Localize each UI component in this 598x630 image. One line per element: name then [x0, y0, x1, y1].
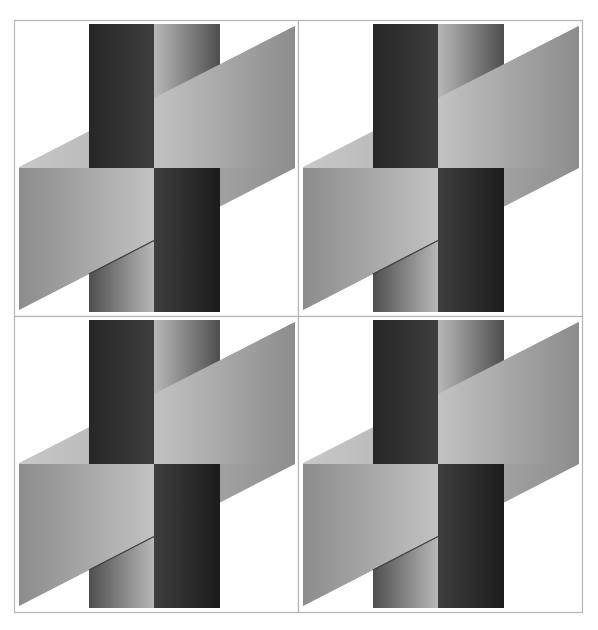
panel-top-right	[299, 21, 583, 317]
illusion-figure	[0, 0, 598, 630]
panel-top-left	[15, 21, 299, 317]
right-bar-lower-dark	[154, 464, 220, 608]
figure-canvas	[0, 0, 598, 630]
left-bar-upper-dark	[373, 320, 438, 464]
right-bar-lower-dark	[438, 464, 504, 608]
right-bar-lower-dark	[154, 168, 220, 312]
panel-bottom-right	[299, 317, 583, 613]
left-bar-upper-dark	[89, 320, 154, 464]
left-bar-upper-dark	[89, 24, 154, 168]
left-bar-upper-dark	[373, 24, 438, 168]
panel-bottom-left	[15, 317, 299, 613]
right-bar-lower-dark	[438, 168, 504, 312]
